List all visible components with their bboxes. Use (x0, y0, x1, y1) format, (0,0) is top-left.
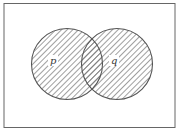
set-p-label: p (50, 55, 57, 66)
venn-diagram: p q (0, 0, 179, 135)
set-q-label: q (111, 55, 117, 66)
